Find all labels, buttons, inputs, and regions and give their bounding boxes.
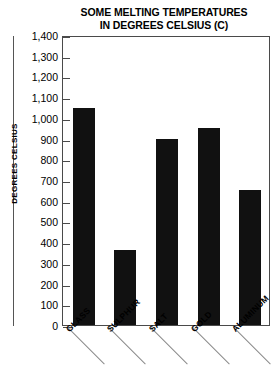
y-tick-label: 300 [40, 258, 58, 270]
y-tick-label: 1,200 [32, 71, 58, 83]
y-tick-label: 1,000 [32, 113, 58, 125]
y-axis-title: DEGREES CELSIUS [10, 69, 19, 259]
y-tick-label: 700 [40, 175, 58, 187]
plot-area: 1,4001,3001,2001,1001,000900800700600500… [62, 36, 270, 326]
y-tick-label: 100 [40, 299, 58, 311]
y-tick-label: 500 [40, 216, 58, 228]
bar [198, 128, 220, 325]
y-tick-label: 1,100 [32, 92, 58, 104]
y-tick-label: 600 [40, 196, 58, 208]
x-axis-category-labels: GLASSSULPHURSALTGOLDALUMINUM [62, 327, 277, 387]
y-axis-title-group: DEGREES CELSIUS [2, 36, 18, 326]
y-tick-label: 900 [40, 134, 58, 146]
y-tick-label: 1,300 [32, 51, 58, 63]
bars-group [63, 37, 269, 325]
y-tick-label: 400 [40, 237, 58, 249]
y-tick-label: 800 [40, 154, 58, 166]
chart-title-line-1: SOME MELTING TEMPERATURES [81, 6, 248, 18]
chart-title: SOME MELTING TEMPERATURES IN DEGREES CEL… [52, 6, 276, 31]
x-axis-label-leader-line [192, 327, 229, 364]
y-tick-label: 0 [52, 320, 58, 332]
x-axis-label-leader-line [150, 327, 187, 364]
bar [73, 108, 95, 326]
y-tick-label: 1,400 [32, 30, 58, 42]
x-axis-label-leader-line [67, 327, 104, 364]
bar [156, 139, 178, 325]
y-tick-label: 200 [40, 279, 58, 291]
x-axis-label-leader-line [233, 327, 270, 364]
x-axis-label-leader-line [109, 327, 146, 364]
chart-title-line-2: IN DEGREES CELSIUS (C) [52, 19, 276, 32]
bar-chart: SOME MELTING TEMPERATURES IN DEGREES CEL… [0, 0, 279, 387]
